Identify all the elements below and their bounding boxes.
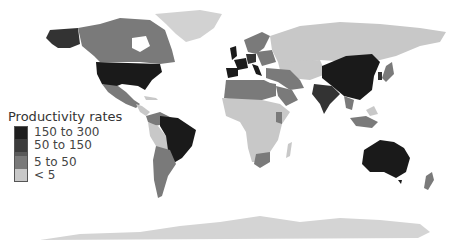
region-canada bbox=[78, 18, 175, 64]
legend-swatch bbox=[14, 169, 28, 182]
region-spain bbox=[226, 68, 238, 78]
region-korea bbox=[378, 72, 382, 80]
region-eastern-europe bbox=[256, 50, 276, 66]
map-legend: Productivity rates 150 to 300 50 to 150 … bbox=[8, 109, 128, 182]
legend-title: Productivity rates bbox=[8, 109, 128, 124]
legend-label: < 5 bbox=[34, 169, 56, 182]
region-south-africa bbox=[254, 152, 270, 168]
region-italy bbox=[252, 64, 262, 76]
region-new-zealand bbox=[424, 172, 434, 190]
legend-swatch bbox=[14, 139, 28, 152]
region-scandinavia bbox=[244, 32, 270, 54]
legend-item: < 5 bbox=[8, 169, 128, 182]
region-africa bbox=[222, 98, 290, 162]
region-antarctica bbox=[40, 216, 430, 240]
legend-swatch bbox=[14, 156, 28, 169]
region-australia bbox=[362, 140, 410, 178]
legend-swatch bbox=[14, 126, 28, 139]
legend-item: 5 to 50 bbox=[8, 156, 128, 169]
region-japan bbox=[382, 62, 394, 82]
legend-item: 50 to 150 bbox=[8, 139, 128, 152]
legend-label: 50 to 150 bbox=[34, 139, 92, 152]
region-alaska bbox=[46, 28, 80, 48]
region-germany bbox=[246, 54, 256, 64]
region-egypt bbox=[264, 82, 276, 96]
region-mexico bbox=[102, 84, 140, 108]
region-madagascar bbox=[286, 142, 292, 158]
region-uk bbox=[230, 46, 237, 60]
